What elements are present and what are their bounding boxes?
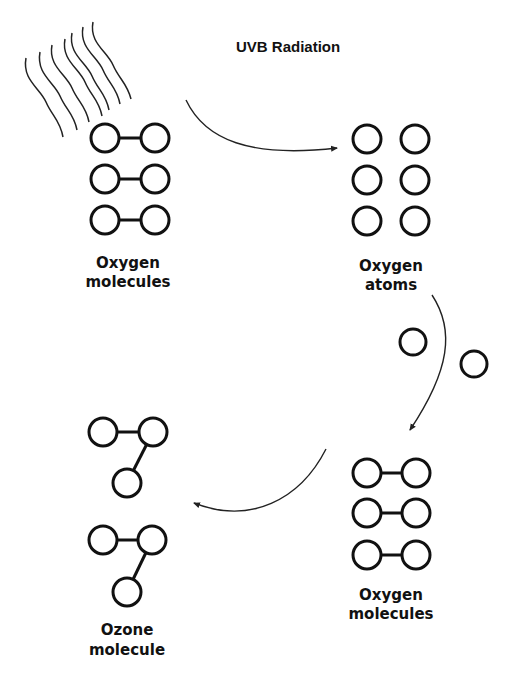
oxygen-atom (353, 207, 381, 235)
oxygen-molecule (91, 124, 169, 152)
arrow-form-ozone-icon (194, 449, 326, 511)
arrow-combine-icon (410, 295, 446, 430)
label-oxygen-molecules-2-line2: molecules (348, 605, 433, 623)
ozone-molecule (89, 526, 166, 606)
label-oxygen-molecules-1-line2: molecules (85, 273, 170, 291)
oxygen-atom (353, 166, 381, 194)
free-oxygen-atom (400, 329, 426, 355)
label-oxygen-atoms-line1: Oxygen (359, 257, 423, 275)
oxygen-atom (353, 125, 381, 153)
oxygen-atom (401, 166, 429, 194)
oxygen-atom (401, 125, 429, 153)
oxygen-molecule (353, 541, 430, 569)
oxygen-molecule (353, 459, 430, 487)
oxygen-molecule (91, 206, 169, 234)
oxygen-molecules-group-1 (91, 124, 169, 234)
diagram-title: UVB Radiation (236, 38, 340, 55)
oxygen-molecule (353, 499, 430, 527)
arrow-split-icon (186, 100, 337, 151)
oxygen-molecule (91, 165, 169, 193)
oxygen-atoms-group (353, 125, 429, 235)
oxygen-atom (401, 207, 429, 235)
uv-radiation-waves-icon (25, 22, 131, 137)
ozone-formation-diagram: UVB Radiation Oxygen molecules Oxygen at… (0, 0, 523, 680)
label-ozone-molecule-line2: molecule (89, 641, 165, 659)
ozone-molecule (89, 418, 167, 497)
label-oxygen-atoms-line2: atoms (365, 276, 417, 294)
label-ozone-molecule-line1: Ozone (101, 621, 154, 639)
label-oxygen-molecules-2-line1: Oxygen (359, 586, 423, 604)
oxygen-molecules-group-2 (353, 459, 430, 569)
free-oxygen-atom (461, 351, 487, 377)
label-oxygen-molecules-1-line1: Oxygen (96, 254, 160, 272)
